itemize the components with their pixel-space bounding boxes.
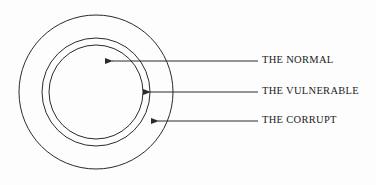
concentric-circles-diagram: THE NORMAL THE VULNERABLE THE CORRUPT [0, 0, 376, 185]
label-corrupt: THE CORRUPT [262, 114, 337, 125]
middle-circle [42, 38, 150, 146]
inner-circle [49, 45, 143, 139]
label-normal: THE NORMAL [262, 54, 334, 65]
label-vulnerable: THE VULNERABLE [262, 85, 359, 96]
